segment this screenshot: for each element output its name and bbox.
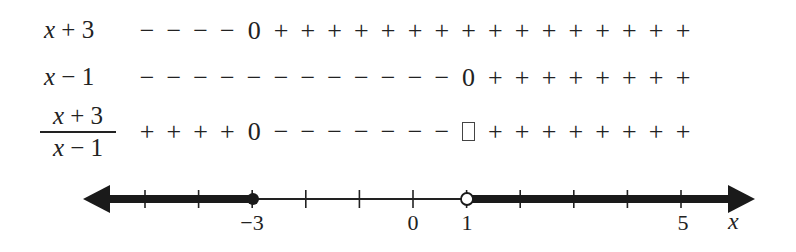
shaded-ray-left: [100, 195, 253, 203]
tick-label-1: 1: [447, 210, 487, 236]
open-point-1: [461, 193, 473, 205]
tick-label-5: 5: [663, 210, 703, 236]
closed-point-minus-3: [247, 193, 259, 205]
shaded-ray-right: [467, 195, 737, 203]
left-arrow-icon: [83, 185, 110, 213]
tick-label-minus-3: −3: [232, 210, 272, 236]
axis-label-x: x: [728, 208, 739, 235]
tick-label-0: 0: [393, 210, 433, 236]
